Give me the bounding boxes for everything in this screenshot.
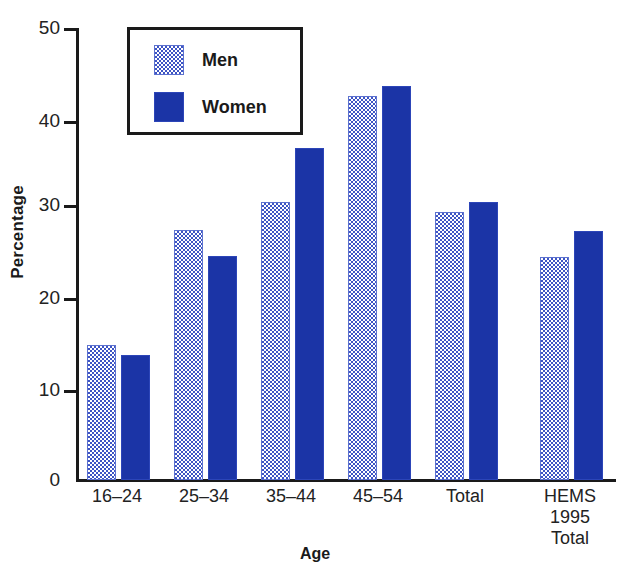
x-label-16-24-line1: 16–24 xyxy=(69,486,165,507)
y-tick-label-20: 20 xyxy=(14,287,60,309)
bar-women-hems xyxy=(574,231,603,480)
legend-label-women: Women xyxy=(202,97,267,118)
x-label-45-54-line1: 45–54 xyxy=(330,486,426,507)
legend-label-men: Men xyxy=(202,50,238,71)
x-label-35-44-line1: 35–44 xyxy=(243,486,339,507)
bar-chart: Percentage 50 40 30 20 10 0 16–24 xyxy=(0,0,630,577)
y-tick-label-40: 40 xyxy=(14,110,60,132)
x-label-total: Total xyxy=(417,486,513,507)
legend: Men Women xyxy=(127,27,303,135)
bar-men-total xyxy=(435,212,464,480)
x-label-25-34: 25–34 xyxy=(156,486,252,507)
x-label-45-54: 45–54 xyxy=(330,486,426,507)
y-tick-label-10: 10 xyxy=(14,379,60,401)
x-label-hems-line1: HEMS xyxy=(522,486,618,507)
bar-men-25-34 xyxy=(174,230,203,480)
x-axis-title: Age xyxy=(0,545,630,563)
y-tick-label-0: 0 xyxy=(14,469,60,491)
y-tick-label-50: 50 xyxy=(14,17,60,39)
bar-men-hems xyxy=(540,257,569,480)
x-label-hems-line2: 1995 xyxy=(522,507,618,528)
x-label-total-line1: Total xyxy=(417,486,513,507)
bar-women-25-34 xyxy=(208,256,237,480)
legend-swatch-women-icon xyxy=(154,92,184,122)
legend-swatch-men-icon xyxy=(154,45,184,75)
bar-women-35-44 xyxy=(295,148,324,480)
bar-women-45-54 xyxy=(382,86,411,480)
bar-women-total xyxy=(469,202,498,480)
x-label-16-24: 16–24 xyxy=(69,486,165,507)
bar-women-16-24 xyxy=(121,355,150,480)
legend-item-women: Women xyxy=(154,92,267,122)
y-tick-label-30: 30 xyxy=(14,194,60,216)
bar-men-16-24 xyxy=(87,345,116,480)
x-label-35-44: 35–44 xyxy=(243,486,339,507)
bar-men-45-54 xyxy=(348,96,377,480)
bar-men-35-44 xyxy=(261,202,290,480)
x-label-hems: HEMS 1995 Total xyxy=(522,486,618,549)
legend-item-men: Men xyxy=(154,45,238,75)
x-label-25-34-line1: 25–34 xyxy=(156,486,252,507)
